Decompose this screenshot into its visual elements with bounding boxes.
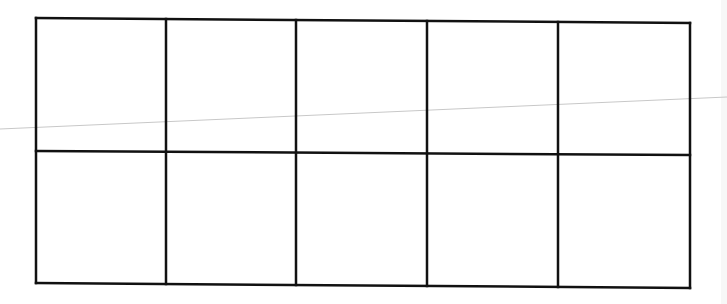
grid-cell [168,21,294,150]
grid-cell [168,154,294,282]
grid-cell [429,23,556,151]
grid-cell [298,22,425,151]
grid-cell [38,153,164,281]
grid-cell [560,24,688,152]
ten-frame-grid [36,18,690,288]
grid-cell [298,155,425,283]
grid-cell [560,156,688,285]
ten-frame-diagram [0,0,727,304]
grid-cell [38,20,164,149]
grid-cell [429,155,556,284]
